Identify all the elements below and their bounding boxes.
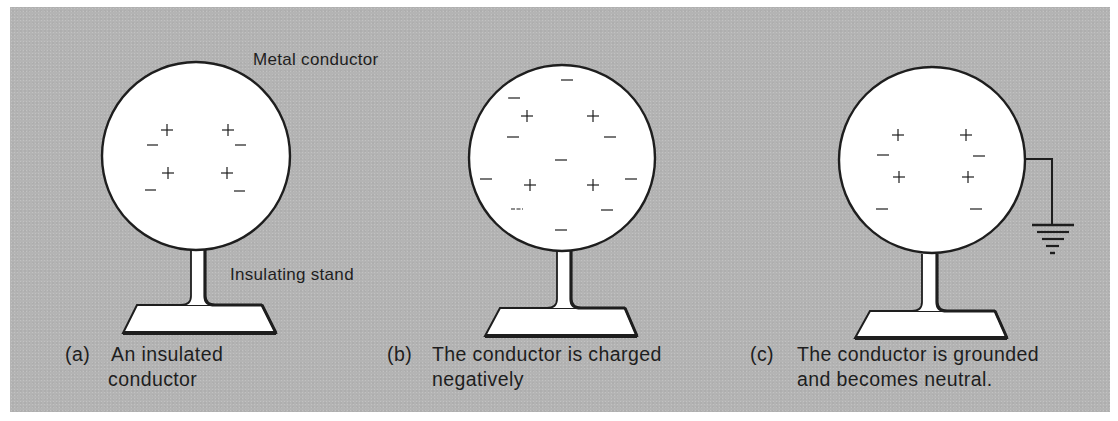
panel-b-charged-conductor xyxy=(469,65,655,336)
caption-tag-b: (b) xyxy=(387,342,412,367)
ground-wire xyxy=(1024,159,1052,225)
metal-conductor-label: Metal conductor xyxy=(253,51,378,68)
caption-b-line-2: negatively xyxy=(432,367,662,392)
caption-tag-a: (a) xyxy=(65,342,90,367)
caption-a: (a) An insulated conductor xyxy=(65,342,365,394)
caption-b-line-1: The conductor is charged xyxy=(432,342,662,367)
metal-sphere-c xyxy=(839,67,1025,253)
caption-c-line-2: and becomes neutral. xyxy=(797,367,1039,392)
caption-b: (b) The conductor is charged negatively xyxy=(387,342,727,394)
caption-a-line-1: An insulated xyxy=(111,342,223,367)
caption-tag-c: (c) xyxy=(750,342,774,367)
ground-icon xyxy=(1024,159,1074,253)
caption-a-line-2: conductor xyxy=(108,367,223,392)
metal-sphere-b xyxy=(469,65,655,251)
caption-c-line-1: The conductor is grounded xyxy=(797,342,1039,367)
insulating-stand-a xyxy=(123,248,276,333)
metal-sphere-a xyxy=(102,62,290,250)
panel-a-insulated-conductor xyxy=(102,62,290,333)
insulating-stand-label: Insulating stand xyxy=(230,266,354,283)
insulating-stand-c xyxy=(855,252,1007,338)
insulating-stand-b xyxy=(485,249,637,336)
caption-c: (c) The conductor is grounded and become… xyxy=(750,342,1110,394)
panel-c-grounded-conductor xyxy=(839,67,1074,338)
